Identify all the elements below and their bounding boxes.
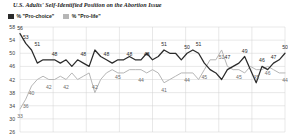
y-axis-tick-label: 34 — [0, 103, 15, 109]
data-label-pro-life: 41 — [161, 87, 167, 93]
legend-item-pro-life: % "Pro-life" — [63, 13, 100, 19]
y-axis-tick-label: 38 — [0, 90, 15, 96]
data-label-pro-choice: 48 — [52, 51, 58, 57]
data-label-pro-life: 45 — [236, 74, 242, 80]
y-axis-tick-label: 50 — [0, 50, 15, 56]
chart-figure: U.S. Adults' Self-Identified Position on… — [0, 0, 288, 138]
data-label-pro-life: 44 — [282, 77, 288, 83]
plot-area — [20, 27, 285, 132]
data-label-pro-choice: 56 — [17, 25, 23, 31]
data-label-pro-choice: 46 — [259, 57, 265, 63]
data-label-pro-life: 42 — [46, 84, 52, 90]
legend-item-pro-choice: % "Pro-choice" — [8, 13, 54, 19]
data-label-pro-choice: 50 — [282, 44, 288, 50]
data-label-pro-choice: 48 — [127, 51, 133, 57]
data-label-pro-life: 46 — [265, 70, 271, 76]
data-label-pro-life: 36 — [23, 103, 29, 109]
data-label-pro-life: 45 — [253, 74, 259, 80]
data-label-pro-choice: 47 — [225, 54, 231, 60]
data-label-pro-choice: 47 — [271, 54, 277, 60]
chart-legend: % "Pro-choice" % "Pro-life" — [8, 13, 101, 19]
data-label-pro-life: 42 — [92, 84, 98, 90]
legend-label-pro-life: % "Pro-life" — [72, 13, 101, 19]
data-label-pro-life: 42 — [63, 84, 69, 90]
y-axis-tick-label: 42 — [0, 77, 15, 83]
y-axis-tick-label: 58 — [0, 24, 15, 30]
data-label-pro-choice: 51 — [161, 41, 167, 47]
data-label-pro-life: 51 — [219, 54, 225, 60]
y-axis-tick-label: 30 — [0, 116, 15, 122]
data-label-pro-choice: 51 — [196, 41, 202, 47]
data-label-pro-choice: 48 — [104, 51, 110, 57]
y-axis-tick-label: 26 — [0, 129, 15, 135]
data-label-pro-life: 44 — [184, 77, 190, 83]
data-label-pro-choice: 50 — [184, 44, 190, 50]
data-label-pro-choice: 48 — [144, 51, 150, 57]
data-label-pro-life: 40 — [29, 90, 35, 96]
data-label-pro-choice: 48 — [81, 51, 87, 57]
legend-label-pro-choice: % "Pro-choice" — [17, 13, 55, 19]
legend-swatch-pro-life — [63, 14, 69, 19]
data-label-pro-life: 45 — [202, 74, 208, 80]
chart-title: U.S. Adults' Self-Identified Position on… — [13, 2, 162, 8]
data-label-pro-life: 45 — [115, 74, 121, 80]
data-label-pro-choice: 51 — [34, 41, 40, 47]
data-label-pro-choice: 53 — [23, 34, 29, 40]
y-axis-tick-label: 46 — [0, 63, 15, 69]
chart-canvas — [20, 27, 285, 132]
y-axis-tick-label: 54 — [0, 37, 15, 43]
legend-swatch-pro-choice — [8, 14, 14, 19]
data-label-pro-choice: 49 — [242, 48, 248, 54]
data-label-pro-life: 33 — [17, 113, 23, 119]
data-label-pro-life: 44 — [138, 77, 144, 83]
